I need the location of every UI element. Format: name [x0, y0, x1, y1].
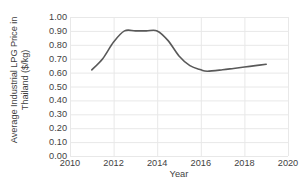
x-axis-tick-label: 2010: [50, 158, 90, 168]
plot-area: [0, 0, 308, 184]
x-axis-title: Year: [70, 169, 288, 179]
x-axis-tick-label: 2012: [94, 158, 134, 168]
grid-lines-horizontal: [70, 18, 288, 157]
x-axis-tick-label: 2014: [137, 158, 177, 168]
x-axis-tick-label: 2018: [224, 158, 264, 168]
chart-container: Average Industrial LPG Price in Thailand…: [0, 0, 308, 184]
x-axis-tick-label: 2016: [181, 158, 221, 168]
x-axis-tick-label: 2020: [268, 158, 308, 168]
data-line-lpg-price: [92, 30, 266, 71]
